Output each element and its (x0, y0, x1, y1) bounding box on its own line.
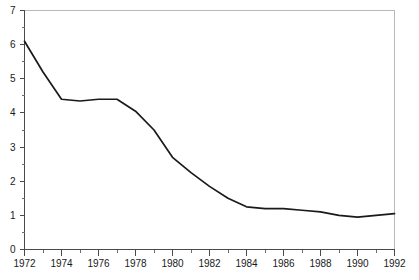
x-tick-label: 1972 (13, 258, 36, 269)
x-tick-label: 1988 (309, 258, 332, 269)
x-axis-ticks (25, 250, 395, 256)
y-tick-label: 3 (10, 142, 16, 153)
y-tick-label: 7 (10, 5, 16, 16)
x-tick-label: 1986 (272, 258, 295, 269)
x-tick-label: 1980 (161, 258, 184, 269)
chart-container: 1972197419761978198019821984198619881990… (0, 0, 419, 280)
data-series-group (25, 41, 395, 217)
x-tick-label: 1974 (50, 258, 73, 269)
x-tick-label: 1982 (198, 258, 221, 269)
y-tick-label: 2 (10, 176, 16, 187)
y-tick-label: 5 (10, 73, 16, 84)
y-axis-ticks (20, 11, 25, 250)
x-tick-label: 1978 (124, 258, 147, 269)
x-tick-label: 1976 (87, 258, 110, 269)
y-tick-label: 6 (10, 39, 16, 50)
data-line-1 (25, 41, 395, 217)
y-tick-label: 0 (10, 244, 16, 255)
x-tick-label: 1990 (346, 258, 369, 269)
y-tick-label: 1 (10, 210, 16, 221)
plot-frame (25, 11, 395, 250)
x-tick-label: 1984 (235, 258, 258, 269)
line-chart-plot: 1972197419761978198019821984198619881990… (0, 0, 419, 280)
y-tick-label: 4 (10, 107, 16, 118)
y-axis-tick-labels: 01234567 (10, 5, 16, 255)
x-tick-label: 1992 (383, 258, 406, 269)
x-axis-tick-labels: 1972197419761978198019821984198619881990… (13, 258, 406, 269)
